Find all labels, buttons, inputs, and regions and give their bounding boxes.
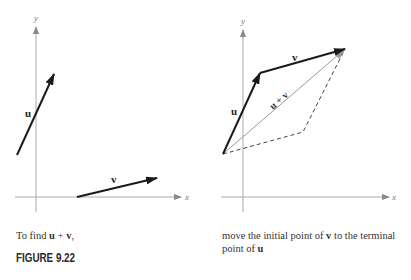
right-panel: y x u + v u v bbox=[221, 16, 396, 212]
right-vector-v-label: v bbox=[292, 51, 298, 63]
left-panel: y x u v bbox=[15, 13, 189, 212]
right-y-axis-label: y bbox=[240, 16, 245, 26]
figure-label: FIGURE 9.22 bbox=[16, 251, 75, 265]
caption-text: to the terminal bbox=[331, 230, 395, 241]
caption-plus: + bbox=[55, 230, 66, 241]
caption-vector-u: u bbox=[258, 243, 264, 254]
caption-text: point of bbox=[222, 243, 258, 254]
caption-text: To find bbox=[16, 230, 49, 241]
right-caption: move the initial point of v to the termi… bbox=[222, 229, 402, 255]
right-x-axis-label: x bbox=[391, 192, 396, 202]
right-vector-v bbox=[260, 49, 345, 73]
right-vector-u-plus-v-label: u + v bbox=[267, 89, 290, 111]
left-vector-v-label: v bbox=[111, 173, 117, 185]
caption-text: move the initial point of bbox=[222, 230, 326, 241]
left-vector-v bbox=[77, 178, 157, 197]
right-vector-u-label: u bbox=[231, 105, 237, 117]
left-caption: To find u + v, bbox=[16, 229, 74, 242]
left-vector-u-label: u bbox=[25, 107, 31, 119]
caption-text: , bbox=[71, 230, 74, 241]
figure-canvas: y x u v y x u + v u v bbox=[0, 0, 411, 240]
left-y-axis-label: y bbox=[33, 13, 38, 23]
right-vector-u bbox=[223, 73, 260, 154]
left-x-axis-label: x bbox=[184, 192, 189, 202]
